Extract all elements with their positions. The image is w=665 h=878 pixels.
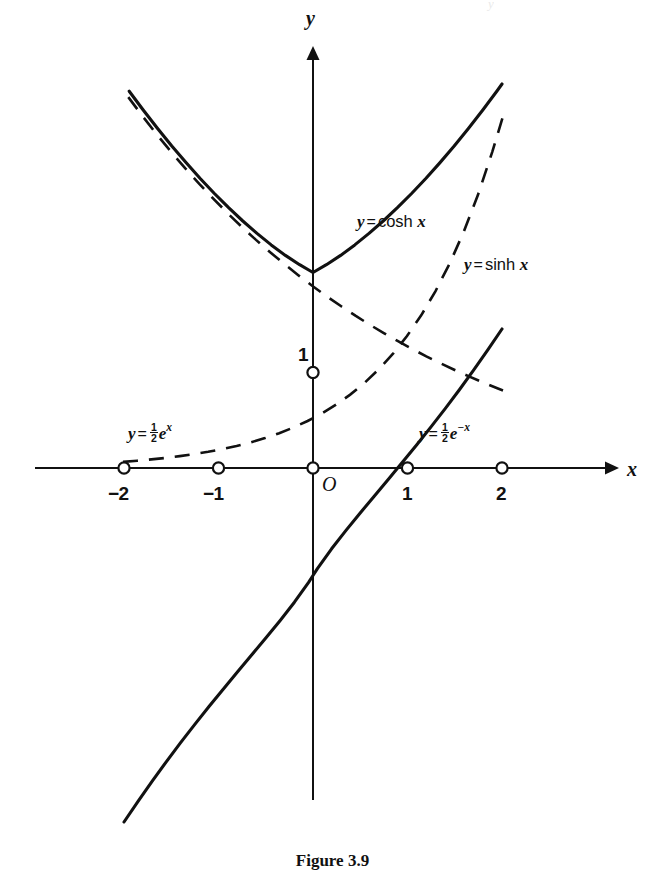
y-axis-label: y	[306, 8, 315, 28]
curve-label-sinh: y=sinh x	[464, 256, 528, 273]
curve-label-half-exp-negative: y=12e−x	[419, 423, 470, 445]
half-exp-neg-denominator: 2	[441, 432, 449, 444]
half-exp-pos-numerator: 1	[150, 422, 158, 433]
half-exp-neg-fraction: 12	[441, 422, 449, 444]
half-exp-pos-exponent: x	[166, 421, 172, 433]
curve-label-half-exp-positive: y=12ex	[128, 423, 172, 445]
x-axis-label: x	[627, 459, 637, 479]
tick-label-x-2: 2	[496, 484, 506, 503]
half-exp-neg-numerator: 1	[441, 422, 449, 433]
marker-x-minus-1	[213, 462, 224, 473]
cosh-label-lhs: y	[357, 212, 365, 231]
sinh-label-equals: =	[472, 256, 485, 273]
tick-label-x-minus-1: −1	[203, 484, 224, 503]
marker-x-minus-2	[118, 462, 129, 473]
curve-cosh	[129, 84, 502, 273]
half-exp-pos-denominator: 2	[150, 432, 158, 444]
curve-half-exp-negative	[128, 97, 503, 390]
sinh-label-function: sinh	[485, 255, 515, 273]
tick-label-y-1: 1	[298, 345, 308, 364]
tick-label-x-minus-2: −2	[108, 484, 129, 503]
origin-label: O	[322, 474, 336, 494]
tick-label-x-1: 1	[402, 484, 412, 503]
x-axis-arrowhead	[605, 462, 619, 475]
figure-caption: Figure 3.9	[0, 851, 665, 871]
marker-origin	[307, 462, 318, 473]
cosh-label-function: cosh	[378, 212, 413, 230]
cosh-label-equals: =	[365, 213, 378, 230]
marker-x-1	[402, 462, 413, 473]
marker-x-2	[496, 462, 507, 473]
half-exp-neg-equals: =	[427, 425, 440, 442]
half-exp-neg-lhs: y	[419, 424, 427, 443]
y-axis-arrowhead	[307, 46, 320, 60]
sinh-label-variable: x	[520, 255, 529, 274]
plot-canvas	[0, 0, 665, 878]
curve-label-cosh: y=cosh x	[357, 213, 426, 230]
half-exp-pos-lhs: y	[128, 424, 136, 443]
figure-3-9: y y x	[0, 0, 665, 878]
cosh-label-variable: x	[417, 212, 426, 231]
half-exp-pos-equals: =	[136, 425, 149, 442]
half-exp-neg-exponent: −x	[457, 421, 470, 433]
axis-lines	[35, 46, 619, 800]
sinh-label-lhs: y	[464, 255, 472, 274]
marker-y-1	[307, 367, 318, 378]
half-exp-pos-fraction: 12	[150, 422, 158, 444]
